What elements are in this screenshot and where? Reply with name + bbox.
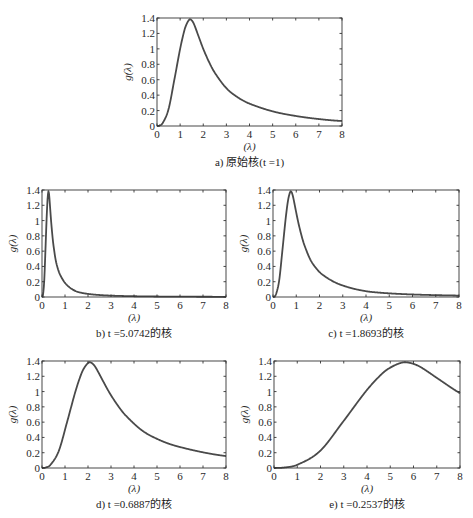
y-tick-label: 0.8 (257, 230, 271, 242)
x-tick-label: 3 (341, 470, 347, 482)
x-axis-label: (λ) (128, 311, 140, 324)
y-tick-label: 0.6 (141, 74, 155, 86)
x-tick-label: 8 (456, 299, 462, 311)
y-tick-label: 1 (35, 215, 41, 227)
x-tick-label: 1 (62, 299, 68, 311)
y-tick-label: 1.2 (26, 199, 40, 211)
x-axis-label: (λ) (361, 482, 373, 495)
y-tick-label: 0 (266, 291, 272, 303)
x-tick-label: 7 (200, 470, 206, 482)
x-tick-label: 6 (177, 299, 183, 311)
x-tick-label: 6 (411, 470, 417, 482)
panel-caption: e) t =0.2537的核 (329, 497, 405, 511)
y-tick-label: 1.4 (26, 355, 40, 367)
y-tick-label: 0.8 (26, 230, 40, 242)
y-tick-label: 0.2 (258, 447, 272, 459)
panel-caption: d) t =0.6887的核 (96, 497, 172, 511)
panel-b: 01234567800.20.40.60.811.21.4(λ)g(λ)b) t… (6, 184, 229, 340)
x-tick-label: 6 (177, 470, 183, 482)
y-tick-label: 0.4 (26, 431, 40, 443)
y-tick-label: 0.2 (26, 276, 40, 288)
x-tick-label: 0 (39, 299, 45, 311)
x-tick-label: 6 (293, 128, 299, 140)
x-tick-label: 7 (433, 299, 439, 311)
x-tick-label: 3 (340, 299, 346, 311)
y-tick-label: 0.2 (257, 276, 271, 288)
x-tick-label: 5 (388, 470, 394, 482)
x-tick-label: 5 (154, 470, 160, 482)
x-tick-label: 2 (85, 299, 91, 311)
figure: 01234567800.20.40.60.811.21.4(λ)g(λ)a) 原… (0, 0, 473, 518)
x-tick-label: 1 (62, 470, 68, 482)
x-tick-label: 2 (85, 470, 91, 482)
x-axis-label: (λ) (360, 311, 372, 324)
y-axis-label: g(λ) (237, 234, 250, 252)
y-tick-label: 0.6 (257, 245, 271, 257)
x-tick-label: 0 (39, 470, 45, 482)
x-tick-label: 4 (363, 299, 369, 311)
x-tick-label: 3 (224, 128, 230, 140)
y-tick-label: 0.4 (141, 89, 155, 101)
y-tick-label: 0.4 (257, 260, 271, 272)
x-tick-label: 4 (247, 128, 253, 140)
y-tick-label: 1.2 (26, 370, 40, 382)
axes-box (42, 190, 226, 297)
y-tick-label: 0.8 (258, 401, 272, 413)
x-tick-label: 8 (223, 299, 229, 311)
y-axis-label: g(λ) (238, 405, 251, 423)
y-tick-label: 0.2 (26, 447, 40, 459)
panel-caption: c) t =1.8693的核 (328, 326, 404, 340)
x-tick-label: 6 (410, 299, 416, 311)
x-tick-label: 0 (271, 470, 277, 482)
kernel-curve (42, 191, 226, 297)
x-tick-label: 1 (294, 299, 300, 311)
y-tick-label: 0.2 (141, 105, 155, 117)
x-tick-label: 4 (364, 470, 370, 482)
y-tick-label: 1.4 (26, 184, 40, 196)
y-tick-label: 1 (35, 386, 41, 398)
y-tick-label: 0 (267, 462, 273, 474)
y-tick-label: 0 (35, 291, 41, 303)
x-tick-label: 0 (270, 299, 276, 311)
panel-e: 01234567800.20.40.60.811.21.4(λ)g(λ)e) t… (238, 355, 463, 511)
y-tick-label: 0.6 (26, 245, 40, 257)
kernel-curve (273, 191, 459, 297)
axes-box (274, 361, 460, 468)
panel-a: 01234567800.20.40.60.811.21.4(λ)g(λ)a) 原… (121, 12, 345, 169)
panel-d: 01234567800.20.40.60.811.21.4(λ)g(λ)d) t… (6, 355, 229, 511)
x-tick-label: 2 (201, 128, 207, 140)
x-tick-label: 3 (108, 470, 114, 482)
x-tick-label: 4 (131, 299, 137, 311)
x-tick-label: 5 (387, 299, 393, 311)
x-tick-label: 7 (316, 128, 322, 140)
y-tick-label: 1.4 (141, 12, 155, 24)
y-tick-label: 1.2 (258, 370, 272, 382)
panel-c: 01234567800.20.40.60.811.21.4(λ)g(λ)c) t… (237, 184, 462, 340)
x-tick-label: 8 (457, 470, 463, 482)
y-tick-label: 1 (266, 215, 272, 227)
x-tick-label: 5 (154, 299, 160, 311)
x-axis-label: (λ) (128, 482, 140, 495)
kernel-curve (42, 362, 226, 468)
y-tick-label: 0.4 (26, 260, 40, 272)
panel-caption: b) t =5.0742的核 (96, 326, 172, 340)
y-tick-label: 1 (267, 386, 273, 398)
x-tick-label: 8 (223, 470, 229, 482)
x-tick-label: 5 (270, 128, 276, 140)
kernel-curve (157, 19, 342, 126)
x-tick-label: 7 (434, 470, 440, 482)
x-tick-label: 1 (177, 128, 183, 140)
y-tick-label: 0.8 (141, 58, 155, 70)
y-axis-label: g(λ) (6, 405, 19, 423)
x-tick-label: 3 (108, 299, 114, 311)
x-tick-label: 0 (154, 128, 160, 140)
y-tick-label: 0.6 (258, 416, 272, 428)
y-tick-label: 1.4 (258, 355, 272, 367)
x-tick-label: 2 (317, 299, 323, 311)
y-tick-label: 1.2 (141, 27, 155, 39)
x-axis-label: (λ) (243, 140, 255, 153)
y-tick-label: 1.4 (257, 184, 271, 196)
x-tick-label: 7 (200, 299, 206, 311)
y-tick-label: 1 (150, 43, 156, 55)
x-tick-label: 2 (318, 470, 324, 482)
